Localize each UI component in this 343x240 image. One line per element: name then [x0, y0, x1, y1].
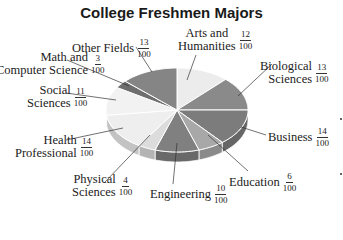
- label-line: Humanities: [178, 40, 236, 53]
- fraction: 14100: [80, 137, 94, 158]
- label-line: Other Fields: [72, 42, 134, 55]
- label-line: Sciences: [72, 186, 116, 199]
- label-line: Engineering: [150, 188, 211, 201]
- label-arts-humanities: Arts and Humanities 12100: [178, 27, 252, 53]
- label-line: Sciences: [27, 97, 71, 110]
- fraction: 4100: [119, 176, 133, 197]
- fraction: 12100: [239, 30, 253, 51]
- fraction: 13100: [137, 38, 151, 59]
- label-health-professional: Health Professional 14100: [15, 134, 93, 160]
- stray-mark: [340, 173, 342, 175]
- label-business: Business 14100: [268, 127, 329, 148]
- label-education: Education 6100: [229, 172, 296, 193]
- label-other-fields: Other Fields 13100: [72, 38, 151, 59]
- fraction: 11100: [74, 87, 88, 108]
- label-engineering: Engineering 10100: [150, 184, 228, 205]
- label-line: Sciences: [260, 73, 312, 86]
- fraction: 6100: [283, 172, 297, 193]
- fraction: 10100: [214, 184, 228, 205]
- label-physical-sciences: Physical Sciences 4100: [72, 173, 132, 199]
- fraction: 13100: [315, 63, 329, 84]
- label-line: Business: [268, 131, 312, 144]
- pie-top-faces: [106, 68, 248, 152]
- label-biological-sciences: Biological Sciences 13100: [260, 60, 329, 86]
- label-social-sciences: Social Sciences 11100: [27, 84, 87, 110]
- label-line: Education: [229, 176, 280, 189]
- stray-mark: [340, 118, 342, 120]
- label-line: Professional: [15, 147, 77, 160]
- label-line: Computer Science: [0, 64, 88, 77]
- fraction: 14100: [315, 127, 329, 148]
